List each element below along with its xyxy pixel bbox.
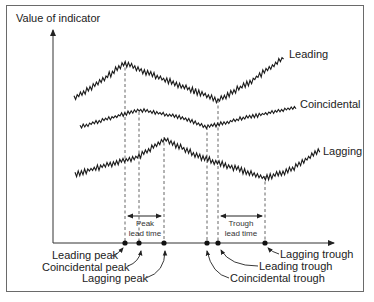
trough-lead-time-label: Trough lead time — [220, 219, 262, 239]
peak-lead-time-line1: Peak — [126, 219, 164, 229]
peak-lead-time-label: Peak lead time — [126, 219, 164, 239]
lagging-peak-pointer — [146, 251, 165, 278]
lagging-curve — [75, 138, 320, 180]
coincidental-trough-label: Coincidental trough — [230, 273, 325, 284]
peak-lead-time-line2: lead time — [126, 229, 164, 239]
coincidental-trough-pointer — [207, 251, 229, 278]
coincidental-curve — [80, 107, 296, 129]
lagging-trough-label: Lagging trough — [280, 249, 353, 260]
coincidental-series-label: Coincidental — [300, 99, 361, 110]
trough-lead-time-line1: Trough — [220, 219, 262, 229]
coincidental-peak-pointer — [128, 251, 141, 266]
lagging-peak-label: Lagging peak — [82, 273, 148, 284]
y-axis-label: Value of indicator — [16, 13, 100, 24]
leading-peak-label: Leading peak — [52, 250, 118, 261]
leading-series-label: Leading — [289, 49, 328, 60]
leading-curve — [74, 58, 284, 103]
leading-trough-label: Leading trough — [259, 261, 332, 272]
lagging-series-label: Lagging — [323, 146, 362, 157]
leading-trough-pointer — [221, 250, 258, 266]
trough-lead-time-line2: lead time — [220, 229, 262, 239]
lagging-trough-pointer — [268, 248, 279, 254]
